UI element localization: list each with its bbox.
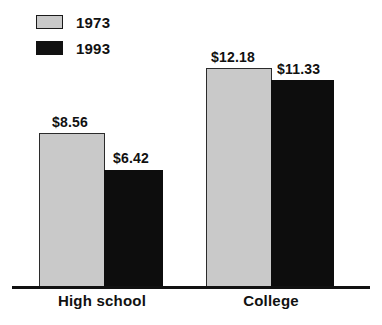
x-axis-line (12, 286, 370, 289)
bar-high-school-1993 (104, 170, 163, 287)
bar-college-1973 (206, 68, 272, 287)
x-axis-label-college: College (208, 292, 334, 309)
bar-college-1993 (271, 80, 334, 287)
plot-area: $8.56 $6.42 $12.18 $11.33 High school Co… (0, 0, 382, 325)
bar-high-school-1973 (39, 133, 105, 287)
x-axis-label-high-school: High school (40, 292, 164, 309)
bar-value-high-school-1993: $6.42 (113, 150, 149, 166)
bar-value-college-1993: $11.33 (277, 61, 320, 77)
bar-value-high-school-1973: $8.56 (52, 114, 88, 130)
bar-chart: 1973 1993 $8.56 $6.42 $12.18 $11.33 High… (0, 0, 382, 325)
bar-value-college-1973: $12.18 (211, 49, 255, 65)
